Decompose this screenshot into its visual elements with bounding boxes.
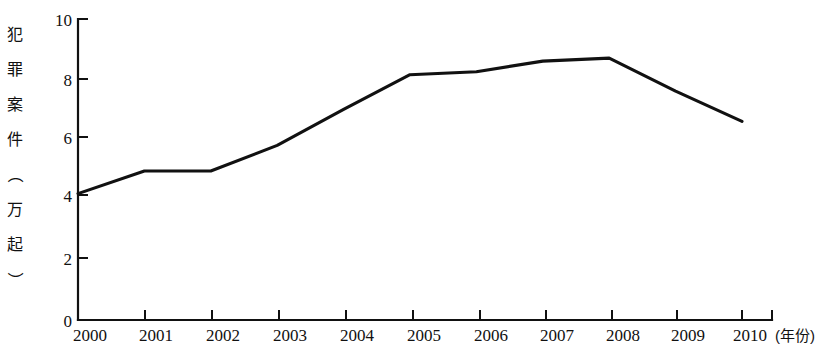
y-tick-label-0: 0	[64, 312, 73, 331]
x-tick-label-2006: 2006	[474, 326, 508, 345]
x-tick-label-2004: 2004	[340, 326, 375, 345]
x-tick-label-2010: 2010	[733, 326, 767, 345]
y-tick-label-6: 6	[64, 129, 73, 148]
y-tick-label-4: 4	[64, 187, 73, 206]
data-line-crime-cases	[78, 58, 742, 194]
x-tick-label-2002: 2002	[206, 326, 240, 345]
x-tick-label-2009: 2009	[671, 326, 705, 345]
x-tick-label-2000: 2000	[73, 326, 107, 345]
line-chart: 犯 罪 案 件 （ 万 起 ） 10 8 6 4 2 0	[0, 0, 819, 347]
y-tick-label-10: 10	[55, 11, 72, 30]
x-tick-label-2005: 2005	[407, 326, 441, 345]
y-tick-label-2: 2	[64, 250, 73, 269]
x-tick-label-2008: 2008	[606, 326, 640, 345]
y-tick-label-8: 8	[64, 71, 73, 90]
chart-canvas: 10 8 6 4 2 0 2000 2001 2002 2003 2004 20…	[0, 0, 819, 347]
x-tick-label-2003: 2003	[273, 326, 307, 345]
x-tick-label-2001: 2001	[139, 326, 173, 345]
x-axis-unit-label: (年份)	[775, 327, 815, 344]
x-tick-label-2007: 2007	[540, 326, 575, 345]
